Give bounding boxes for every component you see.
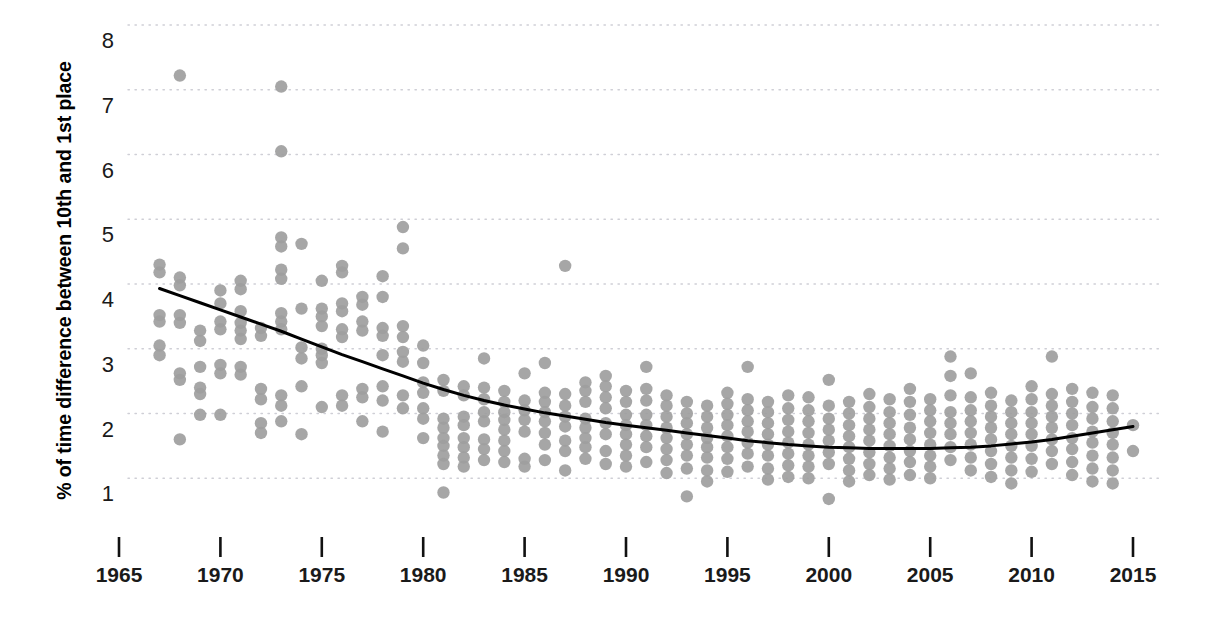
data-point <box>782 425 794 437</box>
data-point <box>823 374 835 386</box>
data-point <box>539 427 551 439</box>
data-point <box>721 387 733 399</box>
data-point <box>498 445 510 457</box>
data-point <box>559 445 571 457</box>
data-point <box>478 381 490 393</box>
data-point <box>1046 445 1058 457</box>
data-point <box>681 396 693 408</box>
data-point <box>782 389 794 401</box>
data-point <box>174 433 186 445</box>
y-axis-tick-label: 7 <box>84 93 114 119</box>
data-point <box>640 441 652 453</box>
data-point <box>458 460 470 472</box>
data-point <box>478 415 490 427</box>
data-point <box>600 445 612 457</box>
data-point <box>701 464 713 476</box>
data-point <box>782 459 794 471</box>
plot-area <box>0 0 1220 629</box>
data-point <box>376 349 388 361</box>
x-axis-tick-label: 2000 <box>789 563 869 587</box>
data-point <box>316 275 328 287</box>
data-point <box>1086 462 1098 474</box>
data-point <box>640 383 652 395</box>
data-point <box>417 339 429 351</box>
x-axis-tick-label: 1990 <box>586 563 666 587</box>
data-point <box>924 427 936 439</box>
data-point <box>1066 469 1078 481</box>
data-point <box>275 240 287 252</box>
y-axis-title: % of time difference between 10th and 1s… <box>44 0 84 560</box>
data-point <box>681 417 693 429</box>
data-point <box>985 433 997 445</box>
data-point <box>316 320 328 332</box>
data-point <box>985 422 997 434</box>
data-point <box>1066 443 1078 455</box>
data-point <box>275 400 287 412</box>
data-point <box>660 467 672 479</box>
data-point <box>985 411 997 423</box>
y-axis-tick-label: 4 <box>84 287 114 313</box>
data-points <box>153 69 1139 505</box>
data-point <box>904 409 916 421</box>
data-point <box>883 440 895 452</box>
data-point <box>944 370 956 382</box>
data-point <box>721 419 733 431</box>
data-point <box>741 425 753 437</box>
data-point <box>924 460 936 472</box>
data-point <box>397 221 409 233</box>
data-point <box>295 238 307 250</box>
data-point <box>802 460 814 472</box>
data-point <box>762 462 774 474</box>
data-point <box>1086 401 1098 413</box>
data-point <box>883 473 895 485</box>
data-point <box>356 391 368 403</box>
data-point <box>802 427 814 439</box>
data-point <box>1086 449 1098 461</box>
data-point <box>498 456 510 468</box>
data-point <box>802 404 814 416</box>
data-point <box>904 396 916 408</box>
data-point <box>741 447 753 459</box>
data-point <box>904 433 916 445</box>
data-point <box>336 331 348 343</box>
data-point <box>153 266 165 278</box>
data-point <box>376 380 388 392</box>
data-point <box>498 385 510 397</box>
data-point <box>1107 402 1119 414</box>
data-point <box>234 283 246 295</box>
data-point <box>802 415 814 427</box>
data-point <box>741 460 753 472</box>
data-point <box>1005 440 1017 452</box>
data-point <box>681 449 693 461</box>
data-point <box>1127 445 1139 457</box>
data-point <box>214 284 226 296</box>
data-point <box>681 438 693 450</box>
data-point <box>985 458 997 470</box>
data-point <box>843 464 855 476</box>
data-point <box>863 412 875 424</box>
data-point <box>255 393 267 405</box>
data-point <box>559 420 571 432</box>
x-axis-tick-label: 2015 <box>1093 563 1173 587</box>
data-point <box>1086 436 1098 448</box>
data-point <box>782 436 794 448</box>
data-point <box>843 419 855 431</box>
data-point <box>944 350 956 362</box>
data-point <box>823 400 835 412</box>
data-point <box>1066 419 1078 431</box>
data-point <box>843 407 855 419</box>
data-point <box>336 400 348 412</box>
data-point <box>295 380 307 392</box>
data-point <box>762 417 774 429</box>
data-point <box>1046 400 1058 412</box>
data-point <box>620 396 632 408</box>
data-point <box>1046 411 1058 423</box>
data-point <box>944 389 956 401</box>
data-point <box>944 417 956 429</box>
data-point <box>356 299 368 311</box>
data-point <box>620 460 632 472</box>
data-point <box>660 454 672 466</box>
x-axis-tick-label: 1985 <box>485 563 565 587</box>
data-point <box>478 454 490 466</box>
data-point <box>316 401 328 413</box>
